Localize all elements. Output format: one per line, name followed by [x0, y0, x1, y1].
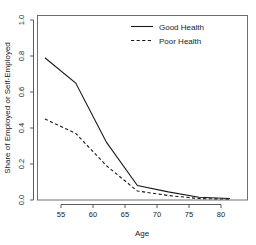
y-tick-label-4: 0.8	[17, 51, 26, 61]
x-axis-title: Age	[135, 229, 150, 238]
legend-entry-poor-health[interactable]: Poor Health	[131, 37, 201, 46]
good-health-line	[45, 58, 230, 199]
x-tick-label-4: 75	[185, 210, 193, 219]
y-tick-label-5: 1.0	[17, 15, 26, 25]
legend-label-good-health: Good Health	[159, 23, 204, 32]
x-axis-tick-labels: 55 60 65 70 75 80	[57, 210, 225, 219]
legend-label-poor-health: Poor Health	[159, 37, 201, 46]
y-axis-tick-labels: 0.0 0.2 0.4 0.6 0.8 1.0	[17, 15, 26, 205]
series-poor-health	[45, 119, 230, 199]
series-good-health	[45, 58, 230, 199]
x-axis-ticks	[61, 205, 221, 209]
y-axis-ticks	[30, 20, 34, 200]
chart-figure: 0.0 0.2 0.4 0.6 0.8 1.0 55 60 65 70 75 8…	[0, 0, 256, 245]
x-tick-label-1: 60	[89, 210, 97, 219]
x-tick-label-3: 70	[153, 210, 161, 219]
line-chart-canvas: 0.0 0.2 0.4 0.6 0.8 1.0 55 60 65 70 75 8…	[0, 0, 256, 245]
plot-area-border	[38, 16, 248, 201]
y-tick-label-3: 0.6	[17, 87, 26, 97]
x-tick-label-0: 55	[57, 210, 65, 219]
y-tick-label-0: 0.0	[17, 195, 26, 205]
poor-health-line	[45, 119, 230, 199]
y-axis-title: Share of Employed or Self-Employed	[3, 42, 12, 174]
x-tick-label-2: 65	[121, 210, 129, 219]
x-tick-label-5: 80	[217, 210, 225, 219]
legend-entry-good-health[interactable]: Good Health	[131, 23, 204, 32]
y-tick-label-1: 0.2	[17, 159, 26, 169]
chart-legend: Good Health Poor Health	[131, 23, 204, 46]
y-tick-label-2: 0.4	[17, 123, 26, 133]
